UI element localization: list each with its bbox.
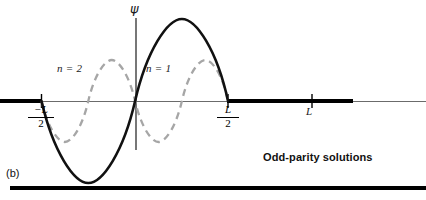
tick-label-pos-half-L: L 2 (217, 104, 239, 129)
curve-label-n2: n = 2 (57, 62, 82, 74)
odd-parity-wavefunction-figure: ψ n = 2 n = 1 −L 2 L 2 L Odd-parity solu… (0, 0, 426, 200)
panel-letter-label: (b) (6, 167, 19, 179)
wavefunction-plot (0, 0, 426, 200)
tick-label-pos-half-L-denominator: 2 (217, 118, 239, 130)
tick-label-pos-half-L-numerator: L (217, 104, 239, 116)
tick-label-full-L: L (306, 105, 312, 117)
tick-label-neg-half-L: −L 2 (28, 104, 54, 129)
curve-label-n1: n = 1 (146, 62, 171, 74)
figure-caption-odd-parity: Odd-parity solutions (263, 151, 373, 163)
tick-label-neg-half-L-numerator: −L (28, 104, 54, 116)
bottom-divider-rule (10, 186, 426, 190)
psi-axis-label: ψ (130, 2, 139, 15)
tick-label-neg-half-L-denominator: 2 (28, 118, 54, 130)
